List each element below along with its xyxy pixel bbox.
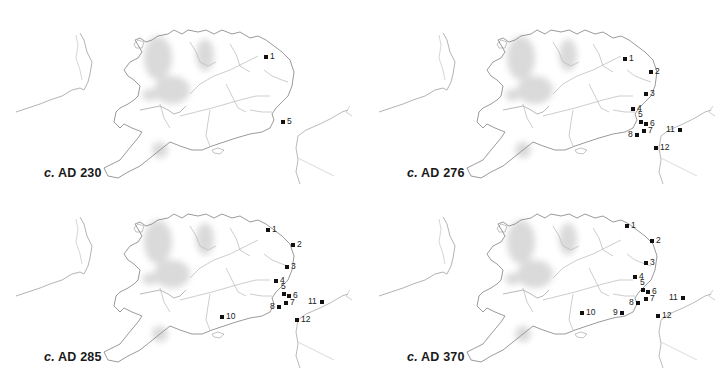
caption-circa: c.	[407, 350, 418, 364]
site-number-label: 11	[308, 297, 317, 306]
caption-date: AD 285	[58, 350, 102, 364]
fort-marker-icon	[277, 305, 281, 309]
map-panel-p276: c. AD 276123456781112	[363, 0, 726, 184]
fort-marker-icon	[320, 300, 324, 304]
fort-marker-icon	[623, 57, 627, 61]
site-number-label: 11	[666, 125, 675, 134]
site-number-label: 2	[297, 240, 302, 249]
panel-caption: c. AD 276	[407, 166, 465, 180]
fort-marker-icon	[264, 55, 268, 59]
basemap	[0, 184, 363, 368]
site-number-label: 8	[629, 298, 634, 307]
fort-marker-icon	[678, 128, 682, 132]
site-number-label: 10	[226, 312, 235, 321]
map-panel-p285: c. AD 28512345678101112	[0, 184, 363, 368]
map-panel-p370: c. AD 370123456789101112	[363, 184, 726, 368]
fort-marker-icon	[654, 146, 658, 150]
site-number-label: 12	[301, 315, 310, 324]
fort-marker-icon	[639, 120, 643, 124]
fort-marker-icon	[633, 275, 637, 279]
site-number-label: 5	[287, 117, 292, 126]
fort-marker-icon	[644, 297, 648, 301]
site-number-label: 5	[640, 278, 645, 287]
caption-date: AD 230	[58, 166, 102, 180]
caption-circa: c.	[44, 350, 55, 364]
fort-marker-icon	[642, 129, 646, 133]
fort-marker-icon	[650, 239, 654, 243]
caption-circa: c.	[44, 166, 55, 180]
site-number-label: 1	[272, 225, 277, 234]
site-number-label: 8	[628, 130, 633, 139]
fort-marker-icon	[635, 133, 639, 137]
fort-marker-icon	[295, 318, 299, 322]
site-number-label: 5	[281, 282, 286, 291]
map-panel-p230: c. AD 23015	[0, 0, 363, 184]
site-number-label: 2	[656, 236, 661, 245]
fort-marker-icon	[644, 92, 648, 96]
fort-marker-icon	[266, 228, 270, 232]
site-number-label: 5	[638, 110, 643, 119]
fort-marker-icon	[625, 224, 629, 228]
panel-caption: c. AD 285	[44, 350, 102, 364]
site-number-label: 3	[291, 262, 296, 271]
fort-marker-icon	[291, 243, 295, 247]
fort-marker-icon	[281, 120, 285, 124]
site-number-label: 11	[669, 293, 678, 302]
panel-caption: c. AD 370	[407, 350, 465, 364]
fort-marker-icon	[274, 279, 278, 283]
site-number-label: 1	[629, 54, 634, 63]
site-number-label: 3	[650, 89, 655, 98]
basemap	[0, 0, 363, 184]
site-number-label: 7	[650, 294, 655, 303]
fort-marker-icon	[681, 296, 685, 300]
fort-marker-icon	[636, 301, 640, 305]
caption-circa: c.	[407, 166, 418, 180]
site-number-label: 3	[650, 258, 655, 267]
caption-date: AD 370	[421, 350, 465, 364]
site-number-label: 8	[270, 302, 275, 311]
basemap	[363, 0, 726, 184]
site-number-label: 7	[290, 298, 295, 307]
panel-caption: c. AD 230	[44, 166, 102, 180]
basemap	[363, 184, 726, 368]
fort-marker-icon	[644, 261, 648, 265]
fort-marker-icon	[631, 107, 635, 111]
fort-marker-icon	[641, 288, 645, 292]
caption-date: AD 276	[421, 166, 465, 180]
fort-marker-icon	[284, 301, 288, 305]
site-number-label: 12	[660, 143, 669, 152]
site-number-label: 1	[270, 52, 275, 61]
fort-marker-icon	[285, 265, 289, 269]
fort-marker-icon	[282, 292, 286, 296]
fort-marker-icon	[656, 314, 660, 318]
site-number-label: 1	[631, 221, 636, 230]
fort-marker-icon	[620, 311, 624, 315]
site-number-label: 12	[662, 311, 671, 320]
site-number-label: 9	[613, 308, 618, 317]
fort-marker-icon	[580, 311, 584, 315]
site-number-label: 2	[655, 67, 660, 76]
site-number-label: 10	[586, 308, 595, 317]
fort-marker-icon	[220, 315, 224, 319]
fort-marker-icon	[649, 70, 653, 74]
site-number-label: 7	[648, 126, 653, 135]
